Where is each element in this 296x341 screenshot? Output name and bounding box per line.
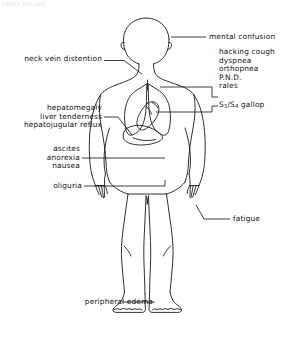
heart-failure-diagram: HEART FAILURE (0, 0, 296, 341)
label-mental-confusion: mental confusion (209, 33, 275, 42)
head-outline (121, 18, 171, 64)
label-fatigue: fatigue (233, 215, 260, 224)
label-peripheral-edema: peripheral edema (0, 298, 153, 307)
label-neck-vein-distention: neck vein distention (0, 55, 102, 64)
legs-outline (121, 194, 173, 294)
label-pulmonary-group: hacking cough dyspnea orthopnea P.N.D. r… (219, 48, 275, 91)
label-nausea: nausea (0, 162, 80, 171)
gallop-suffix: gallop (239, 100, 265, 109)
label-rales: rales (219, 82, 275, 91)
label-hepatojugular-reflux: hepatojugular reflux (0, 121, 102, 130)
label-gallop: S3/S4 gallop (219, 101, 264, 110)
label-hepatic-group: hepatomegaly liver tenderness hepatojugu… (0, 104, 102, 130)
leader-fatigue-stub (196, 205, 204, 219)
label-abdominal-group: ascites anorexia nausea (0, 145, 80, 171)
label-oliguria: oliguria (0, 182, 82, 191)
leader-hepatic (118, 117, 132, 135)
arms-outline (89, 95, 205, 198)
leader-pulmonary (160, 87, 218, 97)
gallop-slash: /S (227, 100, 234, 109)
leader-gallop (156, 106, 218, 112)
leader-lines (82, 37, 230, 302)
